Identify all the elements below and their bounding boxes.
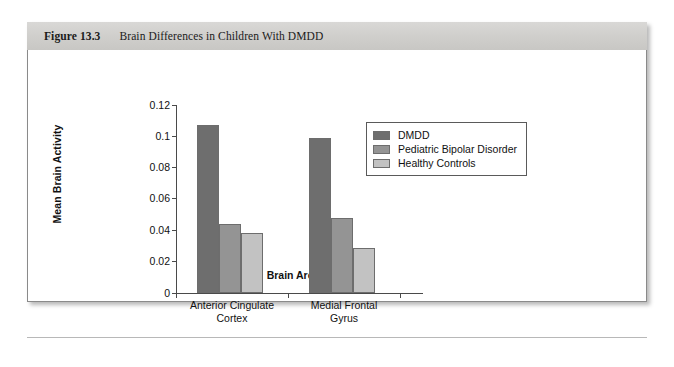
x-category-label-medial-frontal-gyrus: Medial Frontal Gyrus	[286, 299, 402, 324]
figure-body: Mean Brain Activity Brain Area 0.12 0.1 …	[27, 50, 647, 302]
x-tick-mark	[400, 293, 401, 298]
bar-healthy-controls-medial-frontal-gyrus	[353, 248, 375, 293]
legend-label-dmdd: DMDD	[398, 129, 430, 141]
y-tick-mark	[172, 261, 177, 262]
x-category-label-line1: Medial Frontal	[286, 299, 402, 312]
y-tick-label: 0.1	[126, 131, 170, 141]
legend-swatch-healthy-controls	[373, 159, 390, 168]
y-tick-label: 0.06	[126, 193, 170, 203]
y-tick-mark	[172, 230, 177, 231]
legend-label-pediatric-bipolar-disorder: Pediatric Bipolar Disorder	[398, 143, 517, 155]
x-tick-mark	[176, 293, 177, 298]
x-category-label-line2: Cortex	[174, 312, 290, 325]
chart-legend: DMDD Pediatric Bipolar Disorder Healthy …	[366, 122, 527, 176]
x-category-label-anterior-cingulate-cortex: Anterior Cingulate Cortex	[174, 299, 290, 324]
figure-title-text: Brain Differences in Children With DMDD	[119, 30, 323, 42]
legend-label-healthy-controls: Healthy Controls	[398, 157, 476, 169]
figure-number-label: Figure 13.3	[44, 30, 100, 42]
bar-pediatric-bipolar-medial-frontal-gyrus	[331, 218, 353, 293]
bar-healthy-controls-anterior-cingulate-cortex	[241, 233, 263, 293]
y-tick-mark	[172, 105, 177, 106]
x-category-label-line1: Anterior Cingulate	[174, 299, 290, 312]
bar-dmdd-anterior-cingulate-cortex	[197, 125, 219, 293]
legend-swatch-dmdd	[373, 131, 390, 140]
figure-title-bar: Figure 13.3 Brain Differences in Childre…	[27, 22, 647, 50]
y-tick-label: 0	[126, 288, 170, 298]
bar-pediatric-bipolar-anterior-cingulate-cortex	[219, 224, 241, 293]
legend-swatch-pediatric-bipolar-disorder	[373, 145, 390, 154]
legend-item-healthy-controls: Healthy Controls	[373, 156, 517, 170]
legend-item-pediatric-bipolar-disorder: Pediatric Bipolar Disorder	[373, 142, 517, 156]
y-tick-mark	[172, 198, 177, 199]
legend-item-dmdd: DMDD	[373, 128, 517, 142]
bar-chart: Mean Brain Activity Brain Area 0.12 0.1 …	[28, 50, 648, 302]
y-tick-mark	[172, 167, 177, 168]
x-axis-line	[176, 293, 423, 294]
x-tick-mark	[288, 293, 289, 298]
x-category-label-line2: Gyrus	[286, 312, 402, 325]
figure-container: Figure 13.3 Brain Differences in Childre…	[27, 22, 647, 302]
bar-dmdd-medial-frontal-gyrus	[309, 138, 331, 293]
y-tick-label: 0.02	[126, 256, 170, 266]
page-divider-rule	[27, 337, 647, 338]
y-tick-mark	[172, 136, 177, 137]
y-tick-label: 0.08	[126, 162, 170, 172]
y-tick-label: 0.12	[126, 100, 170, 110]
y-axis-line	[176, 105, 177, 293]
y-axis-title: Mean Brain Activity	[51, 99, 63, 249]
y-tick-label: 0.04	[126, 225, 170, 235]
